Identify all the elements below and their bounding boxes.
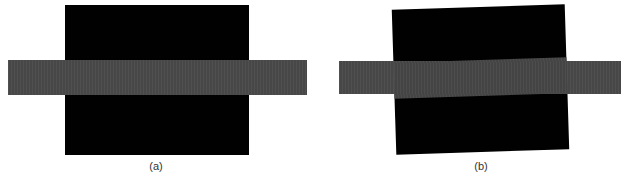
gray-band-rotated-segment	[393, 57, 567, 98]
figure-panel-b: (b)	[315, 0, 629, 181]
panel-caption: (a)	[136, 160, 176, 172]
gray-band	[8, 60, 307, 95]
figure-panel-a: (a)	[0, 0, 315, 181]
panel-caption: (b)	[461, 160, 501, 172]
